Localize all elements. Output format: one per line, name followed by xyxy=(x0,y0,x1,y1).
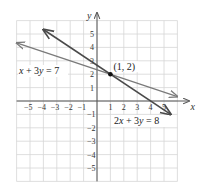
coordinate-plane: xy−5−4−3−2−11234554321−1−2−3−4−5(1, 2)x … xyxy=(0,0,199,193)
x-tick-label: 1 xyxy=(108,103,112,112)
equation-label-2: 2x + 3y = 8 xyxy=(114,115,159,126)
y-tick-label: −1 xyxy=(87,110,96,119)
y-tick-label: −3 xyxy=(87,137,96,146)
intersection-label: (1, 2) xyxy=(113,61,135,73)
y-tick-label: 2 xyxy=(90,70,94,79)
y-tick-label: −2 xyxy=(87,124,96,133)
x-tick-label: −2 xyxy=(64,103,73,112)
x-tick-label: −4 xyxy=(37,103,46,112)
y-tick-label: −5 xyxy=(87,164,96,173)
y-tick-label: 1 xyxy=(90,84,94,93)
x-axis-label: x xyxy=(189,101,195,112)
x-tick-label: 3 xyxy=(135,103,139,112)
equation-label-1: x + 3y = 7 xyxy=(18,65,59,76)
y-tick-label: −4 xyxy=(87,151,96,160)
y-tick-label: 4 xyxy=(90,43,94,52)
x-tick-label: −5 xyxy=(24,103,33,112)
x-tick-label: −1 xyxy=(78,103,87,112)
y-tick-label: 5 xyxy=(90,30,94,39)
y-axis-label: y xyxy=(86,10,92,21)
x-tick-label: 2 xyxy=(122,103,126,112)
x-tick-label: −3 xyxy=(51,103,60,112)
intersection-point xyxy=(108,72,113,77)
x-tick-label: 4 xyxy=(149,103,153,112)
